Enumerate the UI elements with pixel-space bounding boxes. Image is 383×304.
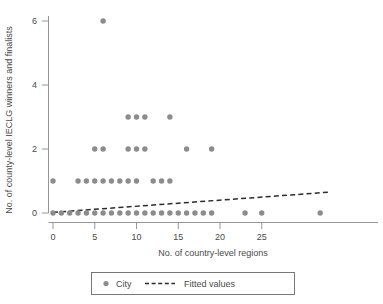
y-axis-ticks: 0246: [32, 16, 49, 218]
x-tick-label: 5: [92, 232, 97, 242]
fitted-values-path: [53, 192, 329, 212]
data-point: [167, 114, 172, 119]
city-data-points: [50, 18, 323, 215]
data-point: [125, 210, 130, 215]
x-tick-label: 15: [173, 232, 183, 242]
data-point: [159, 210, 164, 215]
data-point: [92, 210, 97, 215]
data-point: [92, 146, 97, 151]
x-tick-label: 10: [131, 232, 141, 242]
data-point: [142, 114, 147, 119]
data-point: [176, 210, 181, 215]
y-tick-label: 0: [32, 208, 37, 218]
data-point: [134, 210, 139, 215]
x-axis-ticks: 0510152025: [50, 223, 266, 243]
data-point: [100, 178, 105, 183]
data-point: [167, 178, 172, 183]
scatter-plot-figure: 0246 0510152025 No. of country-level reg…: [0, 0, 383, 304]
data-point: [92, 178, 97, 183]
data-point: [134, 146, 139, 151]
data-point: [125, 146, 130, 151]
y-axis-title: No. of county-level IECLG winners and fi…: [4, 26, 14, 214]
data-point: [50, 210, 55, 215]
data-point: [209, 146, 214, 151]
legend-city-marker: [103, 281, 108, 286]
data-point: [142, 146, 147, 151]
data-point: [125, 114, 130, 119]
data-point: [117, 210, 122, 215]
data-point: [117, 178, 122, 183]
y-tick-label: 2: [32, 144, 37, 154]
legend: City Fitted values: [92, 273, 295, 295]
data-point: [134, 114, 139, 119]
data-point: [184, 146, 189, 151]
data-point: [142, 210, 147, 215]
data-point: [134, 178, 139, 183]
data-point: [167, 210, 172, 215]
y-tick-label: 4: [32, 80, 37, 90]
x-tick-label: 20: [215, 232, 225, 242]
data-point: [75, 178, 80, 183]
data-point: [75, 210, 80, 215]
data-point: [67, 210, 72, 215]
y-tick-label: 6: [32, 16, 37, 26]
data-point: [109, 210, 114, 215]
data-point: [100, 146, 105, 151]
fitted-values-line: [53, 192, 329, 212]
data-point: [318, 210, 323, 215]
data-point: [84, 178, 89, 183]
data-point: [201, 210, 206, 215]
data-point: [109, 178, 114, 183]
x-axis-title: No. of country-level regions: [158, 248, 268, 258]
x-tick-label: 0: [50, 232, 55, 242]
legend-fitted-label: Fitted values: [184, 279, 236, 289]
data-point: [84, 210, 89, 215]
data-point: [192, 210, 197, 215]
data-point: [151, 210, 156, 215]
data-point: [50, 178, 55, 183]
data-point: [209, 210, 214, 215]
data-point: [100, 210, 105, 215]
data-point: [125, 178, 130, 183]
data-point: [100, 18, 105, 23]
data-point: [159, 178, 164, 183]
data-point: [242, 210, 247, 215]
data-point: [184, 210, 189, 215]
data-point: [151, 178, 156, 183]
axes-group: [49, 16, 379, 223]
legend-city-label: City: [116, 279, 132, 289]
data-point: [59, 210, 64, 215]
x-tick-label: 25: [257, 232, 267, 242]
data-point: [259, 210, 264, 215]
chart-canvas: 0246 0510152025 No. of country-level reg…: [0, 0, 383, 304]
